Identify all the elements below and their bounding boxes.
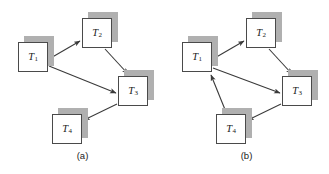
edge-t3-to-t4: [248, 104, 281, 120]
panel-b: T1T2T3T4 (b): [164, 0, 329, 174]
node-t2[interactable]: T2: [82, 18, 112, 48]
edge-t3-to-t4: [84, 104, 117, 120]
node-label-t4: T4: [53, 115, 81, 143]
edge-t1-to-t3: [49, 66, 116, 93]
node-label-t2: T2: [83, 19, 111, 47]
edge-t1-to-t3: [213, 68, 280, 93]
precedence-graph-figure: T1T2T3T4 (a) T1T2T3T4 (b): [0, 0, 329, 174]
panel-b-caption: (b): [164, 150, 329, 161]
node-t4[interactable]: T4: [216, 114, 246, 144]
node-label-t1: T1: [19, 43, 47, 71]
panel-a-caption: (a): [0, 150, 165, 161]
node-t1[interactable]: T1: [182, 42, 212, 72]
panel-a: T1T2T3T4 (a): [0, 0, 165, 174]
node-label-t1: T1: [183, 43, 211, 71]
node-label-t3: T3: [283, 77, 311, 105]
node-label-t2: T2: [247, 19, 275, 47]
node-label-t3: T3: [119, 77, 147, 105]
node-t1[interactable]: T1: [18, 42, 48, 72]
node-t2[interactable]: T2: [246, 18, 276, 48]
node-label-t4: T4: [217, 115, 245, 143]
node-t3[interactable]: T3: [282, 76, 312, 106]
node-t3[interactable]: T3: [118, 76, 148, 106]
edge-t4-to-t1: [211, 75, 226, 112]
node-t4[interactable]: T4: [52, 114, 82, 144]
